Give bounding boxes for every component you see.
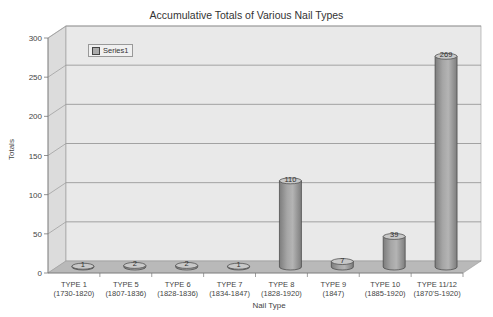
svg-text:39: 39 [390,230,398,239]
svg-text:250: 250 [29,73,43,82]
svg-text:TYPE 8: TYPE 8 [269,280,295,289]
svg-text:(1847): (1847) [322,289,344,298]
svg-text:TYPE 9: TYPE 9 [320,280,346,289]
svg-text:150: 150 [29,152,43,161]
svg-text:TYPE 10: TYPE 10 [370,280,400,289]
svg-text:50: 50 [33,230,42,239]
legend: Series1 [88,44,133,57]
svg-text:(1828-1920): (1828-1920) [261,289,302,298]
svg-text:110: 110 [284,175,296,184]
svg-text:7: 7 [340,256,344,265]
svg-text:2: 2 [185,259,189,268]
svg-text:1: 1 [81,260,85,269]
svg-text:TYPE 6: TYPE 6 [165,280,191,289]
legend-swatch-icon [92,47,100,55]
svg-text:1: 1 [236,260,240,269]
svg-text:TYPE 5: TYPE 5 [113,280,139,289]
svg-text:TYPE 1: TYPE 1 [61,280,87,289]
svg-text:(1870'S-1920): (1870'S-1920) [413,289,461,298]
svg-text:2: 2 [133,259,137,268]
svg-text:0: 0 [38,269,43,278]
plot-area: 050100150200250300TYPE 1(1730-1820)1TYPE… [0,0,493,317]
svg-text:269: 269 [440,50,453,59]
svg-text:TYPE 11/12: TYPE 11/12 [417,280,457,289]
svg-text:100: 100 [29,191,43,200]
svg-text:(1807-1836): (1807-1836) [105,289,146,298]
svg-text:200: 200 [29,112,43,121]
svg-text:(1730-1820): (1730-1820) [54,289,95,298]
svg-text:(1828-1836): (1828-1836) [157,289,198,298]
chart-container: Accumulative Totals of Various Nail Type… [0,0,493,317]
svg-text:TYPE 7: TYPE 7 [217,280,243,289]
svg-text:(1834-1847): (1834-1847) [209,289,250,298]
svg-text:(1885-1920): (1885-1920) [365,289,406,298]
legend-label: Series1 [103,46,128,55]
svg-text:300: 300 [29,34,43,43]
